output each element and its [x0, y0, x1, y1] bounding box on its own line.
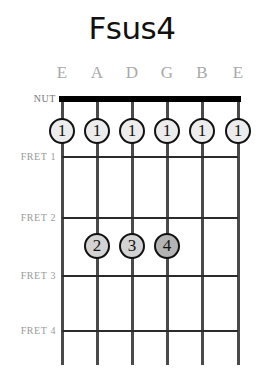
finger-dot-B-fret1: 1	[189, 118, 215, 144]
finger-dot-A-fret3: 2	[84, 233, 110, 259]
chord-diagram: Fsus4 EADGBE NUTFRET 1FRET 2FRET 3FRET 4…	[0, 0, 264, 390]
finger-dot-G-fret3: 4	[154, 233, 180, 259]
finger-dot-E-fret1: 1	[49, 118, 75, 144]
finger-dot-E-fret1: 1	[225, 118, 251, 144]
finger-dot-A-fret1: 1	[84, 118, 110, 144]
finger-dot-D-fret3: 3	[119, 233, 145, 259]
fret-label-4: FRET 4	[0, 325, 56, 337]
fretboard: NUTFRET 1FRET 2FRET 3FRET 4111111234	[0, 0, 264, 390]
fret-line-3	[62, 275, 238, 277]
fret-label-2: FRET 2	[0, 212, 56, 224]
finger-dot-D-fret1: 1	[119, 118, 145, 144]
fret-label-1: FRET 1	[0, 151, 56, 163]
fret-line-2	[62, 217, 238, 219]
fret-label-3: FRET 3	[0, 270, 56, 282]
fret-line-1	[62, 156, 238, 158]
fret-line-4	[62, 330, 238, 332]
nut-label: NUT	[0, 93, 56, 105]
finger-dot-G-fret1: 1	[154, 118, 180, 144]
nut-bar	[59, 96, 241, 102]
